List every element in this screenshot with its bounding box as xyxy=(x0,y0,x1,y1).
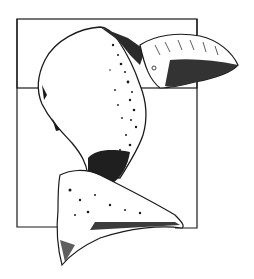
illustration xyxy=(0,0,254,279)
tail-fin xyxy=(57,170,183,265)
